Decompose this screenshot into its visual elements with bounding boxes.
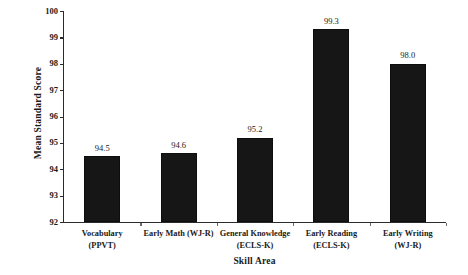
x-tick-mark bbox=[370, 223, 371, 226]
x-tick-mark bbox=[217, 223, 218, 226]
y-tick-label: 96 bbox=[30, 112, 58, 121]
bar-value-label: 98.0 bbox=[400, 51, 415, 60]
y-tick-label: 99 bbox=[30, 33, 58, 42]
y-tick-label: 97 bbox=[30, 86, 58, 95]
x-axis-title: Skill Area bbox=[63, 256, 446, 266]
x-tick-label-line2: (WJ-R) bbox=[362, 240, 454, 252]
bar-slot: 98.0 bbox=[370, 11, 446, 222]
y-tick-label: 100 bbox=[30, 7, 58, 16]
bar[interactable] bbox=[84, 156, 120, 222]
bar-value-label: 94.5 bbox=[95, 144, 110, 153]
bar-slot: 94.5 bbox=[64, 11, 140, 222]
x-tick-mark bbox=[446, 223, 447, 226]
bar-slot: 99.3 bbox=[293, 11, 369, 222]
plot-area: 94.594.695.299.398.0 bbox=[64, 11, 446, 222]
bar-value-label: 95.2 bbox=[248, 125, 263, 134]
x-tick-mark bbox=[293, 223, 294, 226]
y-tick-label: 93 bbox=[30, 191, 58, 200]
x-tick-label: Early Writing(WJ-R) bbox=[362, 228, 454, 251]
x-axis-line bbox=[63, 222, 446, 223]
bar[interactable] bbox=[161, 153, 197, 222]
bar[interactable] bbox=[313, 29, 349, 222]
y-tick-label: 92 bbox=[30, 218, 58, 227]
x-tick-label-line2: (PPVT) bbox=[56, 240, 148, 252]
bar[interactable] bbox=[390, 64, 426, 222]
bar[interactable] bbox=[237, 138, 273, 222]
y-tick-mark bbox=[60, 222, 64, 223]
x-tick-mark bbox=[140, 223, 141, 226]
x-tick-label-line1: Early Math (WJ-R) bbox=[144, 229, 214, 238]
y-tick-label: 95 bbox=[30, 138, 58, 147]
bar-slot: 94.6 bbox=[140, 11, 216, 222]
bar-value-label: 94.6 bbox=[171, 141, 186, 150]
y-tick-label: 98 bbox=[30, 59, 58, 68]
bar-value-label: 99.3 bbox=[324, 17, 339, 26]
bar-chart: Mean Standard Score 1009998979695949392 … bbox=[0, 0, 468, 275]
bar-slot: 95.2 bbox=[217, 11, 293, 222]
y-tick-label: 94 bbox=[30, 165, 58, 174]
x-tick-label-line1: Early Writing bbox=[383, 229, 433, 238]
x-tick-label-line1: General Knowledge bbox=[220, 229, 290, 238]
x-tick-label-line1: Vocabulary bbox=[82, 229, 123, 238]
x-tick-label-line1: Early Reading bbox=[306, 229, 357, 238]
